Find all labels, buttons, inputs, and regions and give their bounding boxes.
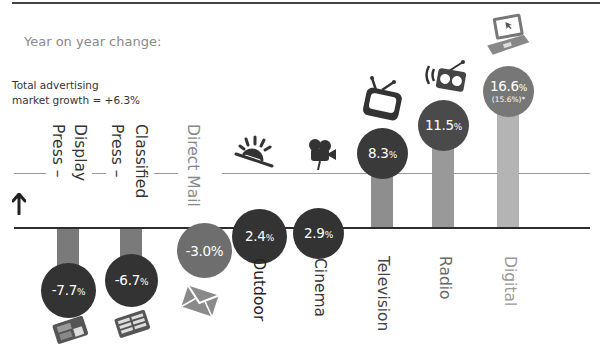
percent-sign: % [389,150,397,160]
label-direct-mail: Direct Mail [184,124,201,207]
radio-icon [423,58,469,98]
label-press-display-1: Press – [49,124,66,177]
reference-line-segment [154,173,178,174]
label-outdoor: Outdoor [250,258,267,321]
label-cinema: Cinema [311,258,328,317]
value-cinema: 2.9 [304,225,325,241]
top-rule [12,2,600,4]
percent-sign: % [140,277,148,287]
value-outdoor: 2.4 [245,228,266,244]
value-direct-mail: -3.0% [186,244,224,258]
value-circle-radio: 11.5% [418,100,469,151]
value-digital: 16.6 [490,78,519,94]
value-circle-press-display: -7.7% [41,263,96,318]
value-radio: 11.5 [425,117,454,133]
bar-radio [432,140,454,227]
note-line-2: market growth = +6.3% [12,93,172,108]
newspaper-icon [50,312,90,346]
value-circle-direct-mail: -3.0% [177,223,232,278]
television-icon [360,76,404,124]
percent-sign: % [454,122,462,132]
value-circle-outdoor: 2.4% [232,209,287,264]
label-press-classified-2: Classified [132,124,149,198]
envelope-icon [180,284,220,318]
label-press-classified-1: Press – [108,124,125,177]
value-circle-cinema: 2.9% [293,208,344,259]
classified-newspaper-icon [112,306,152,340]
value-circle-digital: 16.6% (15.6%)* [483,66,534,117]
value-television: 8.3 [368,145,389,161]
sunrise-billboard-icon [234,134,274,168]
value-digital-secondary: (15.6%)* [492,95,525,104]
percent-sign: % [77,287,85,297]
label-press-display-2: Display [71,124,88,181]
market-growth-note: Total advertising market growth = +6.3% [12,78,172,108]
label-radio: Radio [436,256,453,300]
percent-sign: % [325,230,333,240]
value-press-classified: -6.7 [115,272,140,288]
laptop-icon [482,12,532,62]
bar-digital [497,105,519,227]
reference-line [222,173,590,174]
percent-sign: % [519,83,527,93]
label-digital: Digital [501,256,518,306]
reference-line-segment [92,173,106,174]
label-television: Television [374,256,391,331]
value-press-display: -7.7 [52,282,77,298]
film-camera-icon [300,136,340,170]
note-line-1: Total advertising [12,78,172,93]
up-arrow-icon [12,193,26,215]
percent-sign: % [266,233,274,243]
value-circle-press-classified: -6.7% [105,254,158,307]
value-circle-television: 8.3% [357,128,408,179]
reference-line-segment [14,173,46,174]
chart-subtitle: Year on year change: [24,34,161,49]
